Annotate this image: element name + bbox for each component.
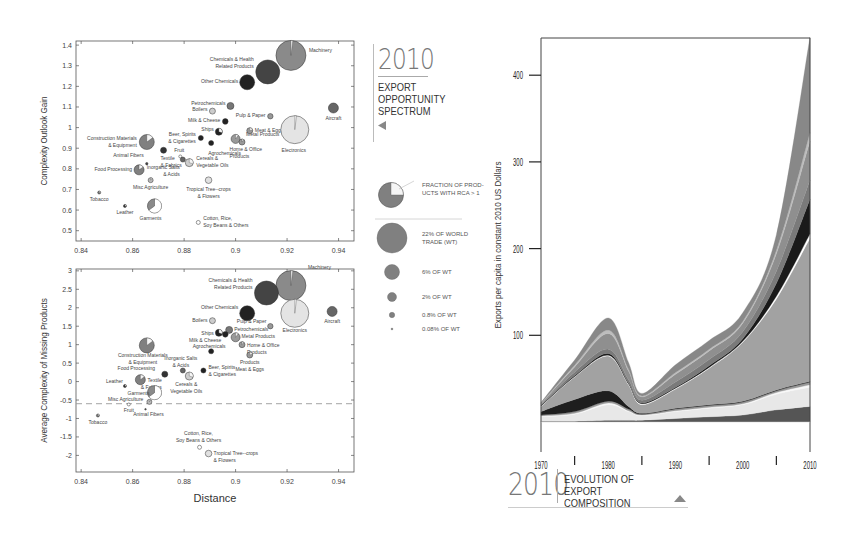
bubble[interactable] bbox=[134, 165, 144, 175]
x-tick-label: 0.94 bbox=[332, 247, 346, 254]
bubble[interactable] bbox=[148, 386, 162, 400]
bubble[interactable] bbox=[180, 157, 185, 162]
y-tick-label: 1 bbox=[68, 124, 72, 131]
triangle-left-icon[interactable] bbox=[378, 121, 388, 131]
bubble-label: Home & Office bbox=[247, 342, 280, 348]
bubble[interactable] bbox=[96, 414, 99, 417]
bubble[interactable] bbox=[247, 128, 253, 134]
bubble-label: Cereals & bbox=[196, 155, 219, 161]
y-tick-label: 0.9 bbox=[62, 145, 72, 152]
bubble[interactable] bbox=[276, 271, 306, 301]
title-line-2: EXPORT COMPOSITION bbox=[564, 485, 669, 509]
bubble[interactable] bbox=[209, 141, 214, 146]
bubble[interactable] bbox=[247, 352, 253, 358]
bubble[interactable] bbox=[215, 329, 222, 336]
bubble-label: Leather bbox=[116, 209, 133, 215]
bubble[interactable] bbox=[205, 177, 212, 184]
legend-size-label: 22% OF WORLDTRADE (WT) bbox=[422, 230, 468, 246]
bubble[interactable] bbox=[123, 385, 126, 388]
bubble-label: Inorganic Salts bbox=[147, 164, 181, 170]
bubble[interactable] bbox=[146, 162, 148, 164]
bubble[interactable] bbox=[185, 159, 193, 167]
bubble[interactable] bbox=[328, 103, 338, 113]
bubble[interactable] bbox=[127, 403, 130, 406]
bubble-label: Tropical Tree--crops bbox=[214, 450, 259, 456]
legend-size-label: 0.08% OF WT bbox=[422, 325, 460, 333]
bubble[interactable] bbox=[268, 324, 273, 329]
bubble[interactable] bbox=[162, 371, 168, 377]
bubble-label: Construction Materials bbox=[118, 352, 168, 358]
y-tick-label: 300 bbox=[513, 157, 523, 168]
bubble[interactable] bbox=[198, 445, 202, 449]
bubble[interactable] bbox=[268, 114, 273, 119]
bubble[interactable] bbox=[256, 60, 280, 84]
bubble-label: Related Products bbox=[214, 284, 253, 290]
bubble[interactable] bbox=[209, 318, 215, 324]
y-tick-label: 0.6 bbox=[62, 207, 72, 214]
bubble-label: Metal Products bbox=[242, 333, 276, 339]
bubble[interactable] bbox=[148, 178, 153, 183]
bubble[interactable] bbox=[205, 450, 212, 457]
bubble-label: Other Chemicals bbox=[201, 304, 239, 310]
title-line-2: OPPORTUNITY bbox=[378, 93, 438, 105]
bubble-label: & Flowers bbox=[214, 457, 237, 463]
bubble-label: Products bbox=[230, 153, 250, 159]
bubble[interactable] bbox=[222, 332, 228, 338]
x-tick-label: 0.9 bbox=[231, 478, 241, 485]
bubble-label: Beer, Spirits bbox=[169, 131, 196, 137]
x-axis-label: Distance bbox=[194, 492, 237, 504]
y-tick-label: 1.1 bbox=[62, 103, 72, 110]
bubble-label: Electronics bbox=[282, 147, 307, 153]
bubble[interactable] bbox=[209, 349, 214, 354]
bubble[interactable] bbox=[276, 40, 306, 70]
triangle-up-icon[interactable] bbox=[674, 495, 686, 503]
bubble[interactable] bbox=[240, 75, 255, 90]
title-year: 2010 bbox=[378, 44, 434, 74]
bubble[interactable] bbox=[196, 220, 200, 224]
bubble[interactable] bbox=[139, 135, 154, 150]
bubble[interactable] bbox=[147, 399, 152, 404]
bubble-label: Animal Fibers bbox=[133, 411, 164, 417]
bubble[interactable] bbox=[231, 134, 240, 143]
bubble-label: Fruit bbox=[174, 147, 185, 153]
y-tick-label: 400 bbox=[513, 71, 523, 82]
bubble[interactable] bbox=[239, 342, 245, 348]
bubble[interactable] bbox=[161, 147, 167, 153]
bubble-label: & Acids bbox=[172, 362, 189, 368]
title-line-1: EVOLUTION OF bbox=[564, 473, 669, 485]
bubble-label: & Cigarettes bbox=[208, 371, 236, 377]
x-tick-label: 0.84 bbox=[74, 478, 88, 485]
y-axis-label: Exports per capita in constant 2010 US D… bbox=[492, 161, 503, 329]
bubble[interactable] bbox=[123, 204, 126, 207]
bubble[interactable] bbox=[98, 191, 101, 194]
bubble[interactable] bbox=[198, 135, 203, 140]
x-tick-label: 0.9 bbox=[231, 247, 241, 254]
bubble[interactable] bbox=[327, 306, 337, 316]
bubble[interactable] bbox=[201, 368, 206, 373]
bubble-label: Machinery bbox=[309, 47, 333, 53]
bubble[interactable] bbox=[254, 281, 278, 305]
bubble[interactable] bbox=[180, 368, 185, 373]
bubble[interactable] bbox=[227, 102, 234, 109]
x-tick-label: 0.94 bbox=[332, 478, 346, 485]
y-tick-label: -0.5 bbox=[60, 397, 72, 404]
bubble-label: Related Products bbox=[215, 63, 254, 69]
y-tick-label: -1 bbox=[66, 415, 72, 422]
legend-size-bubble bbox=[385, 265, 400, 280]
bubble[interactable] bbox=[209, 108, 215, 114]
bubble[interactable] bbox=[145, 408, 147, 410]
bubble[interactable] bbox=[231, 333, 240, 342]
bubble[interactable] bbox=[185, 372, 193, 380]
title-line-3: SPECTRUM bbox=[378, 105, 438, 117]
bubble-label: Textile bbox=[161, 155, 175, 161]
bubble[interactable] bbox=[215, 128, 222, 135]
bubble[interactable] bbox=[135, 375, 145, 385]
bubble[interactable] bbox=[239, 139, 245, 145]
scatter-complexity-outlook-gain: 0.840.860.880.90.920.941.41.31.21.110.90… bbox=[0, 0, 370, 260]
bubble[interactable] bbox=[222, 119, 228, 125]
bubble[interactable] bbox=[281, 116, 309, 144]
bubble[interactable] bbox=[148, 199, 162, 213]
bubble[interactable] bbox=[139, 338, 154, 353]
legend-size-bubble bbox=[391, 328, 393, 330]
bubble[interactable] bbox=[281, 299, 309, 327]
